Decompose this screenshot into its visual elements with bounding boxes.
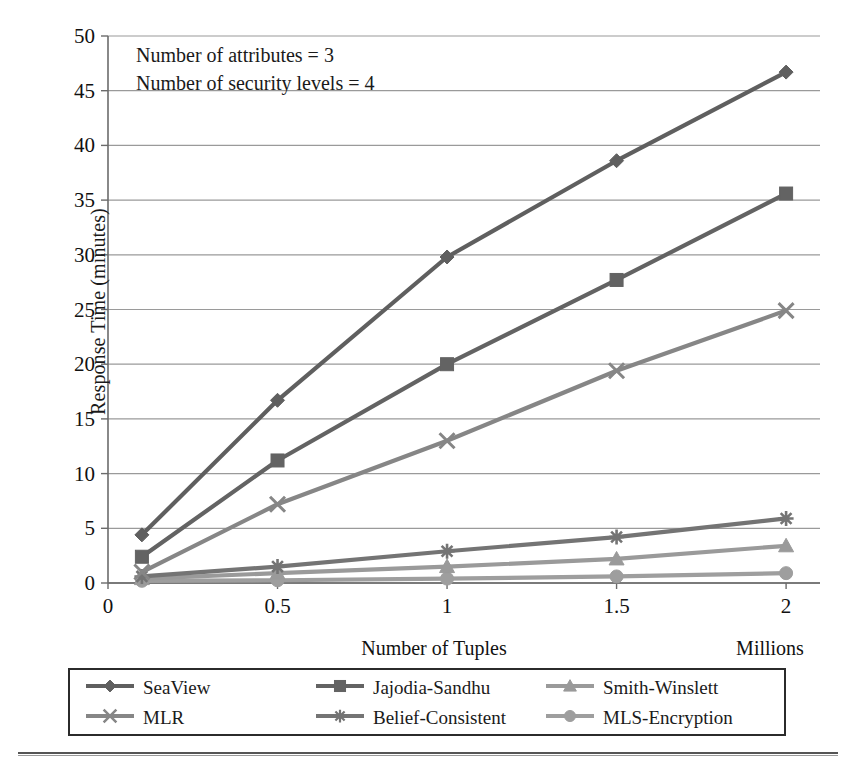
series-jajodia-sandhu <box>135 187 792 563</box>
legend-item-mlr[interactable]: MLR <box>84 705 314 730</box>
x-tick-label: 0.5 <box>264 594 290 618</box>
asterisk-marker <box>334 709 347 722</box>
square-marker <box>441 358 454 371</box>
x-tick-label: 2 <box>781 594 792 618</box>
x-tick-label: 1.5 <box>603 594 629 618</box>
legend-item-belief-consistent[interactable]: Belief-Consistent <box>314 705 544 730</box>
legend-label: MLS-Encryption <box>603 708 733 727</box>
legend-label: SeaView <box>143 678 210 697</box>
square-marker <box>610 273 623 286</box>
asterisk-marker <box>609 530 624 545</box>
circle-marker <box>780 567 793 580</box>
square-marker <box>135 550 148 563</box>
chart-annotation: Number of attributes = 3 <box>136 44 334 66</box>
legend-item-seaview[interactable]: SeaView <box>84 675 314 700</box>
page-divider-shadow <box>18 755 838 756</box>
x-axis-unit-label: Millions <box>736 637 804 659</box>
page-divider <box>18 752 838 754</box>
x-axis-title: Number of Tuples <box>361 637 507 660</box>
legend-item-jajodia-sandhu[interactable]: Jajodia-Sandhu <box>314 675 544 700</box>
line-chart: 0510152025303540455000.511.52Number of a… <box>0 0 857 660</box>
diamond-marker <box>104 680 116 692</box>
legend-label: Belief-Consistent <box>373 708 506 727</box>
chart-plot-area: 0510152025303540455000.511.52Number of a… <box>0 0 857 660</box>
y-tick-label: 45 <box>74 79 95 103</box>
diamond-marker-icon <box>84 675 136 700</box>
square-marker <box>271 454 284 467</box>
y-tick-label: 50 <box>74 24 95 48</box>
series-line <box>142 72 786 535</box>
asterisk-marker-icon <box>314 705 366 730</box>
legend-label: Jajodia-Sandhu <box>373 678 490 697</box>
y-axis-title: Response Time (minutes) <box>87 162 110 462</box>
y-tick-label: 10 <box>74 462 95 486</box>
x-tick-label: 1 <box>442 594 453 618</box>
legend-item-mls-encryption[interactable]: MLS-Encryption <box>544 705 774 730</box>
chart-legend: SeaView Jajodia-Sandhu Smith-Winslett ML… <box>68 668 786 736</box>
circle-marker-icon <box>544 705 596 730</box>
circle-marker <box>564 710 575 721</box>
y-tick-label: 5 <box>85 516 96 540</box>
series-seaview <box>135 65 793 542</box>
square-marker <box>780 187 793 200</box>
y-tick-label: 0 <box>85 571 96 595</box>
square-marker <box>334 680 345 691</box>
chart-annotation: Number of security levels = 4 <box>136 72 374 95</box>
asterisk-marker <box>440 544 455 559</box>
y-tick-label: 40 <box>74 133 95 157</box>
figure-root: 0510152025303540455000.511.52Number of a… <box>0 0 857 769</box>
asterisk-marker <box>779 511 794 526</box>
circle-marker <box>610 570 623 583</box>
square-marker-icon <box>314 675 366 700</box>
legend-label: MLR <box>143 708 184 727</box>
legend-label: Smith-Winslett <box>603 678 718 697</box>
legend-item-smith-winslett[interactable]: Smith-Winslett <box>544 675 774 700</box>
x-tick-label: 0 <box>103 594 114 618</box>
circle-marker <box>441 572 454 585</box>
cross-marker-icon <box>84 705 136 730</box>
asterisk-marker <box>270 559 285 574</box>
triangle-marker-icon <box>544 675 596 700</box>
